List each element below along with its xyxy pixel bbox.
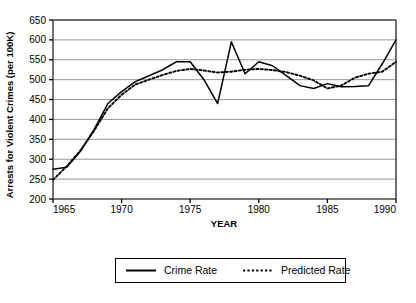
line-chart: 200250300350400450500550600650 196519701… [0, 0, 416, 303]
y-tick-label: 200 [29, 194, 46, 205]
y-axis-title: Arrests for Violent Crimes (per 100K) [4, 32, 15, 199]
y-tick-label: 650 [29, 15, 46, 26]
y-tick-label: 600 [29, 34, 46, 45]
chart-background [0, 0, 416, 303]
x-tick-label: 1970 [110, 204, 133, 215]
legend-label-crime-rate: Crime Rate [164, 264, 217, 276]
legend-label-predicted-rate: Predicted Rate [281, 264, 351, 276]
y-tick-label: 400 [29, 114, 46, 125]
figure-container: 200250300350400450500550600650 196519701… [0, 0, 416, 303]
y-tick-label: 300 [29, 154, 46, 165]
x-tick-label: 1975 [179, 204, 202, 215]
y-tick-label: 450 [29, 94, 46, 105]
x-axis-title: YEAR [211, 218, 238, 229]
chart-legend: Crime Rate Predicted Rate [116, 259, 351, 283]
y-tick-label: 250 [29, 174, 46, 185]
y-tick-label: 350 [29, 134, 46, 145]
x-tick-label: 1980 [248, 204, 271, 215]
y-tick-label: 500 [29, 74, 46, 85]
x-tick-label: 1965 [53, 204, 76, 215]
x-tick-label: 1985 [316, 204, 339, 215]
x-tick-label: 1990 [374, 204, 397, 215]
y-tick-label: 550 [29, 54, 46, 65]
